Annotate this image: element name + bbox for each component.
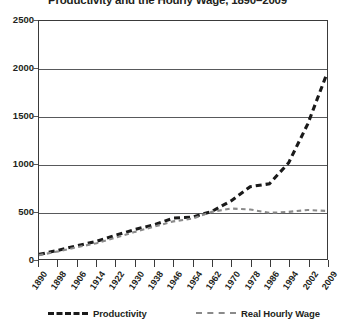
legend-swatch-wage-icon <box>196 312 236 314</box>
x-axis-tick <box>96 260 97 267</box>
chart-title: Productivity and the Hourly Wage, 1890–2… <box>0 0 335 7</box>
y-axis-label: 1500 <box>0 111 34 120</box>
legend-label-real-hourly-wage: Real Hourly Wage <box>241 308 320 319</box>
series-line-real-hourly-wage <box>39 209 327 256</box>
x-axis-tick <box>231 260 232 267</box>
x-axis-tick <box>309 260 310 267</box>
x-axis-tick <box>270 260 271 267</box>
x-axis-tick <box>38 260 39 267</box>
y-axis-label: 1000 <box>0 159 34 168</box>
y-axis-labels: 05001000150020002500 <box>0 0 34 325</box>
x-axis-tick <box>173 260 174 267</box>
legend-item-real-hourly-wage: Real Hourly Wage <box>196 305 320 321</box>
y-axis-label: 2500 <box>0 15 34 24</box>
legend-item-productivity: Productivity <box>48 305 147 321</box>
y-axis-label: 0 <box>0 255 34 264</box>
x-axis-tick <box>251 260 252 267</box>
x-axis-tick <box>77 260 78 267</box>
x-axis-tick <box>115 260 116 267</box>
chart-legend: Productivity Real Hourly Wage <box>0 305 335 321</box>
x-axis-tick <box>154 260 155 267</box>
data-series-svg <box>39 21 327 259</box>
legend-label-productivity: Productivity <box>93 308 147 319</box>
x-axis-tick <box>57 260 58 267</box>
plot-area <box>38 20 328 260</box>
legend-swatch-productivity-icon <box>48 312 88 315</box>
x-axis-tick <box>289 260 290 267</box>
y-axis-label: 2000 <box>0 63 34 72</box>
series-line-productivity <box>39 73 327 254</box>
x-axis-tick <box>328 260 329 267</box>
x-axis-tick <box>193 260 194 267</box>
x-axis-tick <box>135 260 136 267</box>
y-axis-label: 500 <box>0 207 34 216</box>
x-axis-tick <box>212 260 213 267</box>
